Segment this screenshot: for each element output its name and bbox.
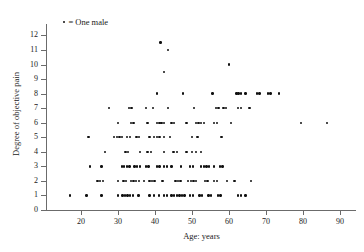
data-point	[180, 165, 182, 167]
y-axis-tick	[41, 65, 46, 66]
data-point	[108, 107, 110, 109]
y-axis-tick	[41, 195, 46, 196]
data-point	[173, 122, 175, 124]
data-point	[138, 180, 140, 182]
data-point	[152, 107, 154, 109]
data-point	[166, 165, 168, 167]
x-axis-tick-label: 60	[219, 217, 239, 226]
data-point	[169, 136, 171, 138]
data-point	[170, 165, 172, 167]
data-point	[153, 180, 155, 182]
x-axis-tick-label: 20	[71, 217, 91, 226]
y-axis-tick	[41, 210, 46, 211]
scatter-plot-figure: = One male 0123456789101112 203040506070…	[0, 0, 364, 252]
data-point	[147, 165, 149, 167]
y-axis-tick-label: 2	[22, 177, 38, 185]
data-point	[159, 41, 161, 43]
x-axis-tick-label: 70	[256, 217, 276, 226]
data-point	[192, 165, 194, 167]
y-axis-tick-label: 7	[22, 104, 38, 112]
data-point	[195, 151, 197, 153]
x-axis-tick	[155, 210, 156, 215]
data-point	[226, 180, 228, 182]
data-point	[225, 107, 227, 109]
y-axis-tick	[41, 123, 46, 124]
data-point	[216, 180, 218, 182]
data-point	[158, 194, 160, 196]
x-axis-tick-label: 50	[182, 217, 202, 226]
data-point	[117, 194, 119, 196]
y-axis-tick	[41, 79, 46, 80]
data-point	[210, 194, 212, 196]
data-point	[104, 151, 106, 153]
data-point	[128, 165, 130, 167]
y-axis-tick	[41, 166, 46, 167]
x-axis-tick	[266, 210, 267, 215]
data-point	[158, 165, 160, 167]
data-point	[139, 165, 141, 167]
y-axis-tick-label: 11	[22, 46, 38, 54]
data-point	[87, 136, 89, 138]
data-point	[148, 194, 150, 196]
y-axis-tick-label: 0	[22, 206, 38, 214]
data-point	[211, 92, 213, 94]
data-point	[163, 151, 165, 153]
data-point	[102, 180, 104, 182]
x-axis-tick-label: 80	[293, 217, 313, 226]
y-axis-tick	[41, 35, 46, 36]
data-point	[182, 92, 184, 94]
data-point	[203, 122, 205, 124]
x-axis-tick	[118, 210, 119, 215]
y-axis-tick	[41, 181, 46, 182]
data-point	[172, 151, 174, 153]
data-point	[117, 122, 119, 124]
data-point	[148, 136, 150, 138]
data-point	[240, 194, 242, 196]
data-point	[163, 71, 165, 73]
data-point	[135, 180, 137, 182]
data-point	[163, 136, 165, 138]
data-point	[132, 122, 134, 124]
data-point	[326, 122, 328, 124]
data-point	[163, 122, 165, 124]
data-point	[196, 136, 198, 138]
y-axis-tick-label: 6	[22, 119, 38, 127]
data-point	[220, 136, 222, 138]
data-point	[167, 107, 169, 109]
data-point	[240, 92, 242, 94]
y-axis-title: Degree of objective pain	[11, 14, 21, 214]
data-point	[127, 151, 129, 153]
data-point	[217, 107, 219, 109]
data-point	[192, 194, 194, 196]
data-point	[244, 194, 246, 196]
data-point	[216, 122, 218, 124]
y-axis-tick	[41, 94, 46, 95]
data-point	[233, 180, 235, 182]
y-axis-tick	[41, 152, 46, 153]
y-axis-tick	[41, 50, 46, 51]
data-point	[100, 165, 102, 167]
data-point	[185, 122, 187, 124]
x-axis-tick-label: 40	[145, 217, 165, 226]
data-point	[206, 180, 208, 182]
data-point	[150, 151, 152, 153]
y-axis-tick-label: 9	[22, 75, 38, 83]
data-point	[100, 194, 102, 196]
data-point	[230, 122, 232, 124]
data-point	[153, 194, 155, 196]
data-point	[85, 194, 87, 196]
data-point	[145, 107, 147, 109]
data-point	[213, 165, 215, 167]
y-axis-tick-label: 12	[22, 31, 38, 39]
data-point	[191, 136, 193, 138]
data-point	[189, 194, 191, 196]
data-point	[143, 180, 145, 182]
data-point	[269, 92, 271, 94]
data-point	[189, 165, 191, 167]
data-point	[250, 180, 252, 182]
x-axis-line	[46, 210, 356, 211]
y-axis-tick-label: 4	[22, 148, 38, 156]
data-point	[176, 151, 178, 153]
y-axis-tick-label: 1	[22, 191, 38, 199]
data-point	[158, 136, 160, 138]
